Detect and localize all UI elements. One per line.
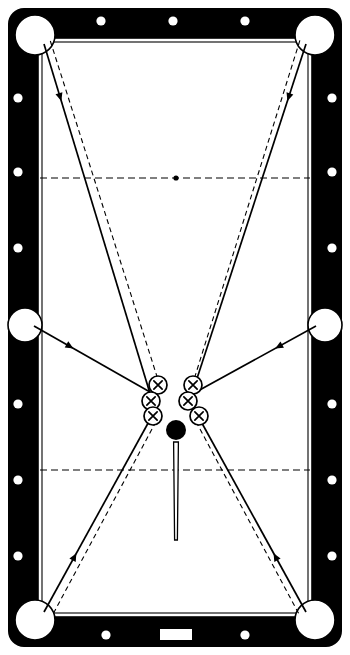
pool-table-diagram xyxy=(0,0,350,655)
right-rail-dot-4 xyxy=(327,399,336,408)
head-string-spot xyxy=(173,175,178,180)
corner-pocket-bottom-left xyxy=(15,600,55,640)
table-canvas xyxy=(0,0,350,655)
right-rail-dot-6 xyxy=(327,551,336,560)
cue-ball xyxy=(166,420,186,440)
right-rail-dot-5 xyxy=(327,475,336,484)
top-rail-dot-1 xyxy=(96,16,105,25)
table-rail-frame xyxy=(8,8,342,647)
side-pocket-left xyxy=(8,308,42,342)
right-rail-dot-2 xyxy=(327,167,336,176)
bottom-rail-dot-1 xyxy=(101,630,110,639)
left-rail-dot-2 xyxy=(13,167,22,176)
bottom-rail-dot-2 xyxy=(240,630,249,639)
corner-pocket-top-right xyxy=(295,15,335,55)
top-rail-dot-2 xyxy=(168,16,177,25)
right-rail-dot-3 xyxy=(327,243,336,252)
side-pocket-right xyxy=(308,308,342,342)
cue-ball-group xyxy=(166,420,186,440)
corner-pocket-bottom-right xyxy=(295,600,335,640)
left-rail-dot-1 xyxy=(13,93,22,102)
cue-stick-group xyxy=(174,442,179,540)
left-rail-dot-6 xyxy=(13,551,22,560)
left-rail-dot-5 xyxy=(13,475,22,484)
corner-pocket-top-left xyxy=(15,15,55,55)
left-rail-dot-4 xyxy=(13,399,22,408)
left-rail-dot-3 xyxy=(13,243,22,252)
bottom-rail-nameplate xyxy=(160,629,192,640)
top-rail-dot-3 xyxy=(240,16,249,25)
right-rail-dot-1 xyxy=(327,93,336,102)
cue-stick xyxy=(174,442,179,540)
nameplate-group xyxy=(160,629,192,640)
